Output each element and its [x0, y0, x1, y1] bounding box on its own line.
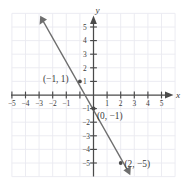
point-label-2-neg5: (2, −5) [125, 159, 151, 170]
y-tick-label: 2 [83, 64, 87, 73]
x-tick-label: 4 [146, 99, 150, 108]
point-marker-neg1-1 [78, 80, 82, 84]
x-tick-label: −4 [22, 99, 30, 108]
y-axis-arrowhead [90, 16, 97, 25]
y-tick-label: 3 [83, 50, 87, 59]
y-tick-label: 4 [83, 36, 87, 45]
line-upper-arrowhead [40, 16, 47, 25]
y-tick-label: 5 [83, 23, 87, 32]
x-tick-label: −1 [62, 99, 70, 108]
point-marker-2-neg5 [119, 161, 123, 165]
point-label-0-neg1: (0, −1) [97, 111, 123, 122]
x-tick-label: 5 [160, 99, 164, 108]
axes [11, 16, 174, 177]
x-tick-label: −2 [49, 99, 57, 108]
x-axis-label: x [175, 90, 181, 100]
x-tick-label: −3 [35, 99, 43, 108]
y-tick-label: 1 [83, 77, 87, 86]
x-tick-label: 1 [105, 99, 109, 108]
x-tick-label: −5 [8, 99, 16, 108]
x-tick-label: 2 [119, 99, 123, 108]
graph-screenshot: −5 −4 −3 −2 −1 1 2 3 4 5 5 4 3 2 1 −1 −2… [0, 0, 188, 194]
y-tick-label: −3 [82, 132, 90, 141]
y-tick-label: −1 [82, 104, 90, 113]
coordinate-plane-figure: −5 −4 −3 −2 −1 1 2 3 4 5 5 4 3 2 1 −1 −2… [0, 0, 188, 194]
y-tick-label: −2 [82, 118, 90, 127]
x-tick-label: 3 [132, 99, 136, 108]
point-label-neg1-1: (−1, 1) [43, 74, 69, 85]
point-marker-0-neg1 [91, 107, 95, 111]
y-tick-label: −4 [82, 145, 90, 154]
x-axis-arrowhead [165, 92, 174, 99]
y-tick-label: −5 [82, 159, 90, 168]
